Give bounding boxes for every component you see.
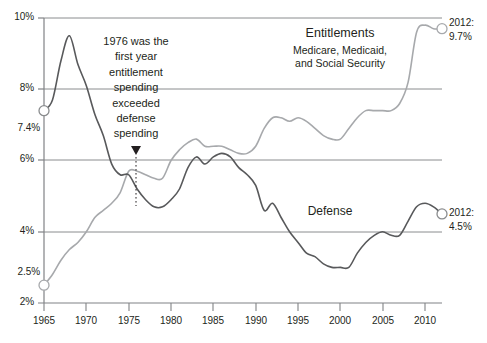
y-tick-label-8pct: 8% [2, 82, 34, 93]
entitlements-end-year: 2012: [449, 16, 474, 30]
y-tick-label-2pct: 2% [2, 296, 34, 307]
annotation-line-4: spending [82, 80, 190, 95]
x-tick-label-1980: 1980 [153, 315, 189, 326]
chart-svg [0, 0, 487, 343]
series-label-defense: Defense [295, 204, 365, 218]
x-tick-label-2005: 2005 [365, 315, 401, 326]
x-tick-label-1965: 1965 [26, 315, 62, 326]
defense-end-year: 2012: [449, 206, 474, 220]
y-callout-label-7-4pct: 7.4% [0, 122, 40, 133]
x-tick-label-1975: 1975 [111, 315, 147, 326]
annotation-pointer [131, 146, 141, 206]
defense-end-marker [437, 209, 447, 219]
x-tick-label-1970: 1970 [68, 315, 104, 326]
annotation-arrow-icon [131, 146, 141, 155]
defense-start-marker [39, 106, 49, 116]
annotation-line-1: 1976 was the [82, 34, 190, 49]
entitlements-start-marker [39, 280, 49, 290]
x-tick-label-1990: 1990 [238, 315, 274, 326]
annotation-line-3: entitlement [82, 65, 190, 80]
entitlements-end-marker [437, 24, 447, 34]
annotation-line-7: spending [82, 126, 190, 141]
x-tick-label-2000: 2000 [322, 315, 358, 326]
series-sublabel-entitlements-line1: Medicare, Medicaid, [276, 44, 404, 57]
defense-end-value: 4.5% [449, 220, 474, 234]
series-label-entitlements: Entitlements [280, 26, 400, 40]
y-tick-label-4pct: 4% [2, 225, 34, 236]
entitlements-end-value: 9.7% [449, 30, 474, 44]
x-tick-label-1985: 1985 [195, 315, 231, 326]
crossover-annotation: 1976 was the first year entitlement spen… [82, 34, 190, 142]
x-tick-label-1995: 1995 [280, 315, 316, 326]
y-tick-label-10pct: 10% [2, 11, 34, 22]
chart-container: 10% 8% 6% 4% 2% 7.4% 2.5% 1965 1970 1975… [0, 0, 487, 343]
x-tick-label-2010: 2010 [407, 315, 443, 326]
entitlements-end-callout: 2012: 9.7% [449, 16, 474, 43]
defense-end-callout: 2012: 4.5% [449, 206, 474, 233]
y-callout-label-2-5pct: 2.5% [0, 266, 40, 277]
annotation-line-2: first year [82, 49, 190, 64]
annotation-line-5: exceeded [82, 96, 190, 111]
y-tick-label-6pct: 6% [2, 153, 34, 164]
series-sublabel-entitlements-line2: and Social Security [276, 57, 404, 70]
x-tick-marks [44, 303, 425, 311]
annotation-line-6: defense [82, 111, 190, 126]
